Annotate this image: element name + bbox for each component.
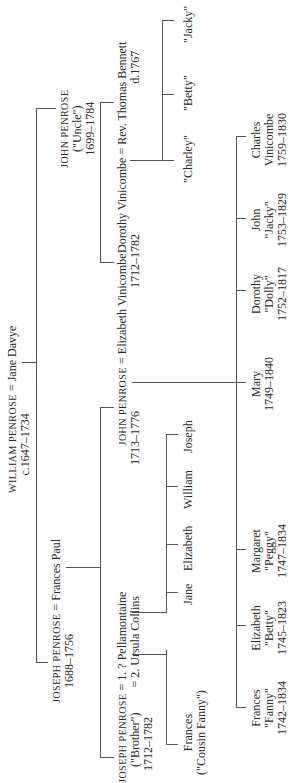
dorothy-vinicombe: Dorothy Vinicombe = Rev. Thomas Bennett … (116, 42, 142, 254)
child-charles: Charles Vinicombe 1759–1830 (250, 113, 289, 167)
line (236, 625, 246, 626)
child-dorothy: Dorothy "Dolly" 1752–1817 (250, 267, 289, 321)
dates: 1753–1829 (275, 193, 289, 247)
name: John (249, 209, 263, 232)
line (130, 160, 162, 161)
line (36, 108, 37, 663)
name: Margaret (249, 529, 263, 573)
name: JOSEPH PENROSE (51, 613, 62, 703)
eq: = (5, 384, 19, 391)
name: Frances (181, 714, 195, 751)
bennett-child: "Charley" (182, 135, 195, 183)
line (236, 549, 246, 550)
dates: 1745–1823 (275, 601, 289, 655)
dates: 1752–1817 (275, 267, 289, 321)
name: Charles (249, 122, 263, 159)
dates: 1712–1782 (141, 717, 155, 771)
ursula-child: Elizabeth (182, 526, 195, 571)
wife-2: 2. Ursula Collins (128, 596, 142, 678)
nick: Vinicombe (262, 114, 276, 167)
wife-1: 1. ? Pellamontaine (115, 592, 129, 681)
nick: "Betty" (262, 610, 276, 646)
line (166, 486, 178, 487)
line (66, 567, 100, 568)
william-penrose: WILLIAM PENROSE = Jane Davye c.1647–1734 (6, 326, 32, 493)
dates: 1747–1834 (275, 524, 289, 578)
ursula-child: William (182, 470, 195, 509)
name: Elizabeth (249, 605, 263, 650)
john-penrose-uncle: JOHN PENROSE ("Uncle") 1699–1784 (58, 89, 97, 168)
child-frances: Frances "Fanny" 1742–1834 (250, 681, 289, 735)
line (162, 20, 174, 21)
line (132, 612, 166, 613)
line (162, 94, 174, 95)
dates: 1759–1830 (275, 113, 289, 167)
line (100, 408, 101, 758)
thomas-bennett: Rev. Thomas Bennett (115, 42, 129, 145)
frances-cousin-fanny: Frances ("Cousin Fanny") (182, 690, 208, 775)
joseph-penrose-1688: JOSEPH PENROSE = Frances Paul 1688–1756 (50, 539, 76, 703)
dates: d.1767 (128, 51, 142, 84)
dates: 1699–1784 (83, 102, 97, 156)
bennett-child: "Jacky" (182, 6, 195, 43)
line (166, 592, 178, 593)
dates: 1688–1756 (62, 634, 76, 688)
line (100, 262, 114, 263)
name: JOHN PENROSE (117, 367, 128, 446)
line (166, 650, 167, 745)
nick: "Jacky" (262, 201, 276, 238)
nick: ("Cousin Fanny") (194, 690, 208, 775)
nick: "Peggy" (262, 531, 276, 571)
name: WILLIAM PENROSE (7, 394, 18, 493)
line (132, 654, 166, 655)
dates: c.1647–1734 (18, 413, 32, 475)
name: Dorothy Vinicombe (115, 158, 129, 253)
line (166, 544, 178, 545)
name: Mary (249, 371, 263, 397)
child-margaret: Margaret "Peggy" 1747–1834 (250, 524, 289, 578)
ursula-child: Jane (182, 584, 195, 605)
jane-davye: Jane Davye (5, 326, 19, 382)
line (236, 290, 246, 291)
child-elizabeth: Elizabeth "Betty" 1745–1823 (250, 601, 289, 655)
nick: "Dolly" (262, 275, 276, 312)
dates: 1749–1840 (262, 357, 276, 411)
line (236, 382, 246, 383)
line (236, 136, 237, 708)
line (100, 102, 114, 103)
line (100, 757, 114, 758)
name: JOHN PENROSE (59, 89, 70, 168)
nick: ("Uncle") (70, 106, 84, 152)
john-penrose-1713: JOHN PENROSE = Elizabeth Vinicombe 1713–… (116, 234, 142, 465)
eq: = (115, 357, 129, 364)
family-tree: WILLIAM PENROSE = Jane Davye c.1647–1734… (0, 0, 298, 783)
line (22, 362, 36, 363)
eq: = (115, 684, 129, 691)
child-mary: Mary 1749–1840 (250, 357, 276, 411)
line (162, 21, 163, 161)
child-john: John "Jacky" 1753–1829 (250, 193, 289, 247)
name: JOSEPH PENROSE (117, 693, 128, 783)
nick: "Fanny" (262, 688, 276, 728)
line (100, 103, 101, 263)
line (166, 435, 167, 613)
dates: 1713–1776 (128, 411, 142, 465)
joseph-penrose-brother: JOSEPH PENROSE = 1. ? Pellamontaine ("Br… (116, 592, 155, 783)
line (132, 382, 236, 383)
line (236, 707, 246, 708)
ursula-child: Joseph (182, 420, 195, 453)
name: Frances (249, 689, 263, 726)
frances-paul: Frances Paul (49, 539, 63, 601)
eq: = (115, 148, 129, 155)
line (236, 136, 246, 137)
bennett-child: "Betty" (182, 75, 195, 111)
eq: = (128, 681, 142, 688)
line (236, 218, 246, 219)
line (36, 108, 56, 109)
line (100, 407, 114, 408)
line (162, 160, 174, 161)
eq: = (49, 604, 63, 611)
line (166, 434, 178, 435)
line (166, 744, 178, 745)
dates: 1742–1834 (275, 681, 289, 735)
